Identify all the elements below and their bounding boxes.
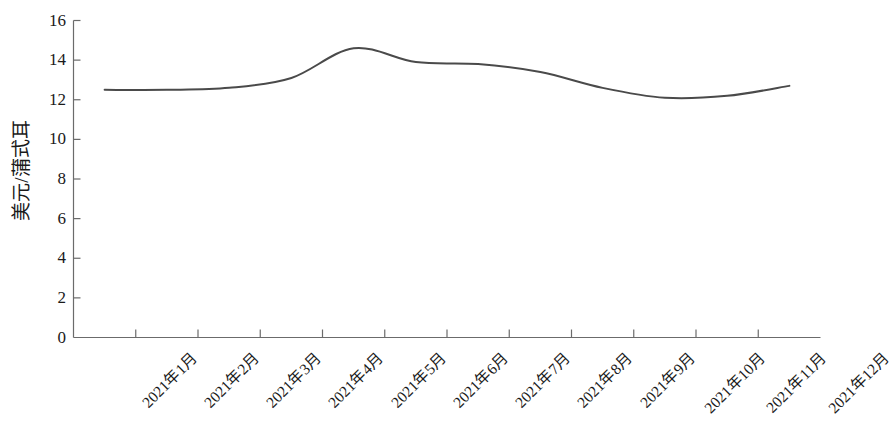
x-axis-ticks <box>136 330 759 338</box>
y-axis-ticks <box>74 21 81 298</box>
series-line-usd-per-bushel <box>105 48 790 98</box>
axis-lines <box>74 21 821 338</box>
